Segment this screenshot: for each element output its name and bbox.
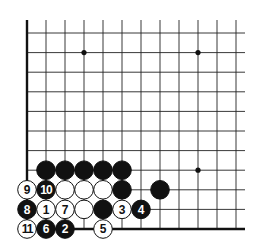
black-stone — [94, 200, 113, 219]
move-number: 4 — [138, 203, 145, 217]
black-stone — [151, 181, 170, 200]
star-point-icon — [81, 50, 86, 55]
star-point-icon — [195, 168, 200, 173]
black-stone — [94, 161, 113, 180]
black-stone — [56, 161, 75, 180]
black-stone-icon — [113, 161, 132, 180]
black-stone-icon — [113, 181, 132, 200]
black-stone-move-6: 6 — [37, 220, 56, 239]
move-number: 1 — [43, 203, 50, 217]
move-number: 10 — [40, 183, 53, 197]
white-stone-move-1: 1 — [37, 200, 56, 219]
board-grid — [26, 20, 245, 230]
move-number: 3 — [119, 203, 126, 217]
white-stone — [56, 181, 75, 200]
white-stone — [75, 200, 94, 219]
black-stone-icon — [56, 161, 75, 180]
black-stone — [113, 161, 132, 180]
black-stone-icon — [94, 161, 113, 180]
white-stone-move-11: 11 — [18, 220, 37, 239]
white-stone-move-5: 5 — [94, 220, 113, 239]
black-stone-move-2: 2 — [56, 220, 75, 239]
black-stone-icon — [94, 200, 113, 219]
stones-layer: 9108173411625 — [18, 161, 170, 238]
star-point-icon — [195, 50, 200, 55]
move-number: 5 — [100, 222, 107, 236]
black-stone-icon — [151, 181, 170, 200]
move-number: 8 — [24, 203, 31, 217]
move-number: 6 — [43, 222, 50, 236]
black-stone-move-8: 8 — [18, 200, 37, 219]
black-stone — [75, 161, 94, 180]
move-number: 9 — [24, 183, 31, 197]
black-stone-move-10: 10 — [37, 181, 56, 200]
white-stone-icon — [94, 181, 113, 200]
white-stone — [75, 181, 94, 200]
white-stone — [94, 181, 113, 200]
black-stone — [113, 181, 132, 200]
black-stone — [37, 161, 56, 180]
white-stone-move-9: 9 — [18, 181, 37, 200]
black-stone-icon — [37, 161, 56, 180]
move-number: 7 — [62, 203, 69, 217]
white-stone-move-7: 7 — [56, 200, 75, 219]
white-stone-icon — [75, 200, 94, 219]
white-stone-icon — [75, 181, 94, 200]
white-stone-move-3: 3 — [113, 200, 132, 219]
black-stone-move-4: 4 — [132, 200, 151, 219]
black-stone-icon — [75, 161, 94, 180]
white-stone-icon — [56, 181, 75, 200]
go-board-diagram: 9108173411625 — [0, 0, 262, 250]
move-number: 2 — [62, 222, 69, 236]
move-number: 11 — [22, 222, 34, 236]
